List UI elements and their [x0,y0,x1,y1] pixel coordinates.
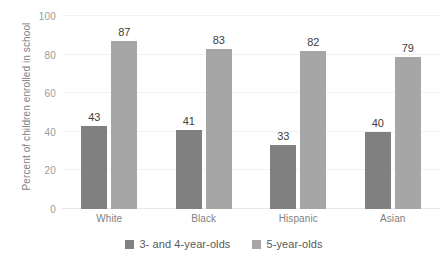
bar-group: 3382 [251,16,346,209]
bar-value-label: 83 [213,34,225,46]
x-axis-category-label: Asian [346,213,441,231]
x-axis-category-label: Hispanic [251,213,346,231]
bar[interactable] [300,51,326,209]
y-axis-tick-label: 20 [0,165,56,176]
y-axis-tick-label: 60 [0,88,56,99]
bar-group: 4387 [62,16,157,209]
bar-group: 4079 [346,16,441,209]
bar-value-label: 87 [118,26,130,38]
bar-group-bars: 4387 [62,16,157,209]
bar-column: 87 [111,16,137,209]
legend-label: 3- and 4-year-olds [139,238,230,250]
y-axis-tick-labels: 020406080100 [0,16,56,209]
x-axis-category-label: White [62,213,157,231]
bar-value-label: 40 [372,117,384,129]
y-axis-tick-label: 100 [0,11,56,22]
bar-column: 79 [395,16,421,209]
bar-column: 41 [176,16,202,209]
legend-item[interactable]: 5-year-olds [252,238,322,250]
bar[interactable] [111,41,137,209]
plot-area: 4387418333824079 [62,16,440,209]
bar-group: 4183 [157,16,252,209]
bar-group-bars: 3382 [251,16,346,209]
bar[interactable] [395,57,421,209]
bar-group-bars: 4183 [157,16,252,209]
bar-group-bars: 4079 [346,16,441,209]
bar-column: 82 [300,16,326,209]
bar-value-label: 79 [402,42,414,54]
bar-column: 33 [270,16,296,209]
bar[interactable] [206,49,232,209]
bar-value-label: 33 [277,130,289,142]
y-axis-tick-label: 0 [0,204,56,215]
bar-column: 83 [206,16,232,209]
bar[interactable] [176,130,202,209]
bar-value-label: 82 [307,36,319,48]
bar-column: 40 [365,16,391,209]
bar-value-label: 41 [183,115,195,127]
x-axis-category-label: Black [157,213,252,231]
chart-legend: 3- and 4-year-olds5-year-olds [0,238,448,250]
y-axis-tick-label: 40 [0,126,56,137]
x-axis-category-labels: WhiteBlackHispanicAsian [62,213,440,231]
bar-column: 43 [81,16,107,209]
bar[interactable] [365,132,391,209]
legend-swatch-icon [252,240,261,249]
bar-chart: Percent of children enrolled in school 0… [0,0,448,267]
bar[interactable] [270,145,296,209]
bar-value-label: 43 [88,111,100,123]
legend-swatch-icon [125,240,134,249]
legend-label: 5-year-olds [266,238,322,250]
bar-groups: 4387418333824079 [62,16,440,209]
y-axis-tick-label: 80 [0,49,56,60]
legend-item[interactable]: 3- and 4-year-olds [125,238,230,250]
bar[interactable] [81,126,107,209]
